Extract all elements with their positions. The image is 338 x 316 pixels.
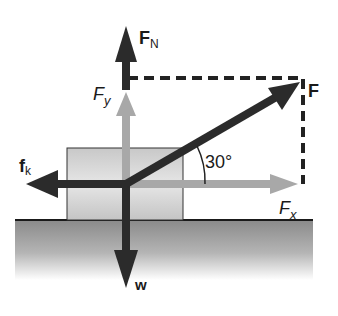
normal-force-arrow [115, 26, 137, 90]
normal-force-label: FN [139, 28, 159, 51]
fx-label: Fx [279, 198, 297, 222]
weight-label: w [134, 276, 147, 293]
ground [15, 220, 313, 280]
friction-label: fk [19, 156, 32, 178]
angle-label: 30° [205, 152, 232, 172]
fy-label: Fy [93, 84, 112, 108]
free-body-diagram: FN Fy F 30° fk Fx w [0, 0, 338, 316]
applied-force-label: F [308, 81, 319, 101]
angle-arc [197, 146, 205, 184]
